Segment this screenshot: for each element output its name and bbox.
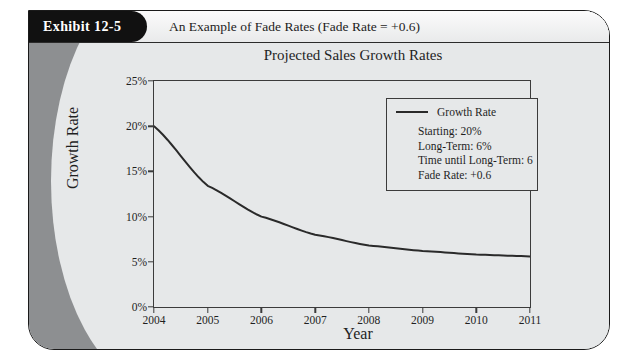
y-axis-label: Growth Rate <box>64 78 82 218</box>
legend-stat-line: Time until Long-Term: 6 <box>418 153 528 168</box>
x-tick-mark <box>153 307 154 313</box>
x-tick-mark <box>476 307 477 313</box>
x-axis-label: Year <box>153 325 563 343</box>
exhibit-title: An Example of Fade Rates (Fade Rate = +0… <box>169 11 420 42</box>
exhibit-number-tab: Exhibit 12-5 <box>29 11 147 42</box>
legend-stats: Starting: 20%Long-Term: 6%Time until Lon… <box>396 124 528 182</box>
legend-stat-line: Fade Rate: +0.6 <box>418 168 528 183</box>
x-tick-mark <box>368 307 369 313</box>
legend-stat-line: Long-Term: 6% <box>418 139 528 154</box>
legend-line-swatch <box>396 111 428 113</box>
exhibit-card: Exhibit 12-5 An Example of Fade Rates (F… <box>28 10 610 350</box>
x-tick-mark <box>422 307 423 313</box>
x-tick-mark <box>261 307 262 313</box>
legend-series-label: Growth Rate <box>437 106 496 118</box>
legend-stat-line: Starting: 20% <box>418 124 528 139</box>
chart-title: Projected Sales Growth Rates <box>97 47 609 64</box>
exhibit-page: Exhibit 12-5 An Example of Fade Rates (F… <box>0 0 628 364</box>
chart-legend: Growth Rate Starting: 20%Long-Term: 6%Ti… <box>386 98 538 191</box>
plot-area: 0%5%10%15%20%25% 20042005200620072008200… <box>153 80 531 308</box>
x-tick-mark <box>529 307 530 313</box>
legend-series-row: Growth Rate <box>396 106 528 118</box>
x-tick-mark <box>314 307 315 313</box>
exhibit-number-label: Exhibit 12-5 <box>43 19 121 35</box>
x-tick-mark <box>207 307 208 313</box>
exhibit-header: Exhibit 12-5 An Example of Fade Rates (F… <box>29 11 609 43</box>
